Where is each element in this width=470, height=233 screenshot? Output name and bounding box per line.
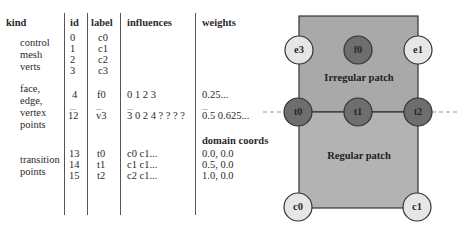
node-label-t0: t0 [283,106,313,118]
irregular-patch-label: Irregular patch [319,72,399,84]
node-label-c0: c0 [283,201,313,213]
node-label-t2: t2 [403,106,433,118]
node-label-e1: e1 [403,44,433,56]
node-label-c1: c1 [402,201,432,213]
node-label-t1: t1 [343,106,373,118]
node-label-e3: e3 [284,44,314,56]
regular-patch-label: Regular patch [319,150,399,162]
patch-diagram [0,0,470,233]
node-label-f0: f0 [343,44,373,56]
